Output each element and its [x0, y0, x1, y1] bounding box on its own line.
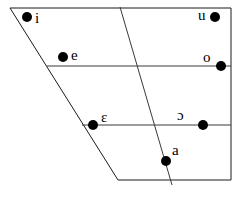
vowel-u-label: u	[198, 8, 206, 23]
vowel-open-o-label: ɔ	[177, 108, 184, 123]
vowel-o-dot[interactable]	[216, 61, 226, 71]
vowel-chart-canvas	[0, 0, 239, 197]
vowel-trapezoid-outline	[10, 8, 231, 180]
vowel-open-e-dot[interactable]	[88, 120, 98, 130]
height-gridlines	[47, 66, 231, 125]
vowel-a-label: a	[172, 143, 179, 158]
vowel-e-dot[interactable]	[58, 52, 68, 62]
vowel-o-label: o	[203, 50, 211, 65]
vowel-u-dot[interactable]	[210, 12, 220, 22]
vowel-chart: iueoɛɔa	[0, 0, 239, 197]
vowel-i-dot[interactable]	[22, 12, 32, 22]
vowel-e-label: e	[71, 48, 78, 63]
vowel-a-dot[interactable]	[161, 156, 171, 166]
vowel-open-o-dot[interactable]	[198, 120, 208, 130]
vowel-dots	[22, 12, 226, 166]
vowel-open-e-label: ɛ	[101, 110, 107, 125]
vowel-i-label: i	[35, 11, 39, 26]
